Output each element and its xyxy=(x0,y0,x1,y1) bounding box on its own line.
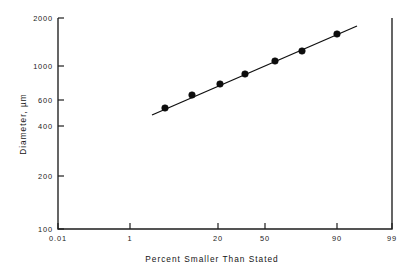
x-tick-label-0-01: 0.01 xyxy=(49,234,67,243)
data-point xyxy=(217,81,224,88)
data-point xyxy=(189,92,196,99)
data-point xyxy=(334,31,341,38)
y-tick-label-200: 200 xyxy=(38,172,53,181)
fit-line xyxy=(152,26,357,115)
y-axis-ticks xyxy=(58,18,64,229)
data-point xyxy=(272,58,279,65)
chart-figure: 2000 1000 600 400 200 100 0.01 1 20 50 9… xyxy=(0,0,412,272)
y-axis-title: Diameter, µm xyxy=(18,93,28,155)
plot-frame xyxy=(58,18,392,229)
y-tick-label-600: 600 xyxy=(38,96,53,105)
x-axis-ticks xyxy=(58,223,392,229)
y-tick-label-100: 100 xyxy=(38,225,53,234)
x-tick-label-90: 90 xyxy=(332,234,342,243)
x-tick-label-1: 1 xyxy=(128,234,133,243)
data-point xyxy=(242,71,249,78)
x-tick-labels: 0.01 1 20 50 90 99 xyxy=(49,234,397,243)
y-tick-label-1000: 1000 xyxy=(33,62,53,71)
x-axis-title: Percent Smaller Than Stated xyxy=(145,254,278,264)
data-point xyxy=(162,105,169,112)
x-tick-label-99: 99 xyxy=(387,234,397,243)
y-tick-label-400: 400 xyxy=(38,122,53,131)
x-tick-label-20: 20 xyxy=(213,234,223,243)
y-tick-labels: 2000 1000 600 400 200 100 xyxy=(33,14,53,234)
y-tick-label-2000: 2000 xyxy=(33,14,53,23)
data-point xyxy=(299,48,306,55)
chart-svg: 2000 1000 600 400 200 100 0.01 1 20 50 9… xyxy=(0,0,412,272)
x-tick-label-50: 50 xyxy=(260,234,270,243)
